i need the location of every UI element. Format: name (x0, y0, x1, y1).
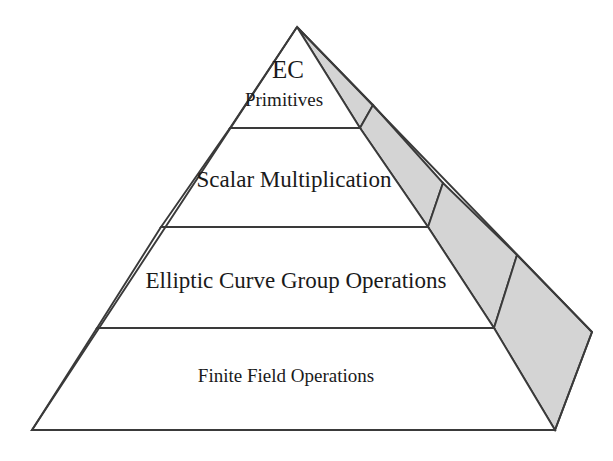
pyramid-diagram: EC Primitives Scalar Multiplication Elli… (0, 0, 613, 461)
pyramid-graphic: EC Primitives Scalar Multiplication Elli… (0, 0, 613, 461)
pyramid-layer-1-label-line2: Primitives (245, 89, 323, 110)
pyramid-layer-2-label: Scalar Multiplication (197, 167, 392, 192)
pyramid-layer-3-label: Elliptic Curve Group Operations (146, 268, 447, 293)
pyramid-layer-1-label-line1: EC (272, 56, 304, 83)
pyramid-layer-4-label: Finite Field Operations (198, 365, 374, 386)
